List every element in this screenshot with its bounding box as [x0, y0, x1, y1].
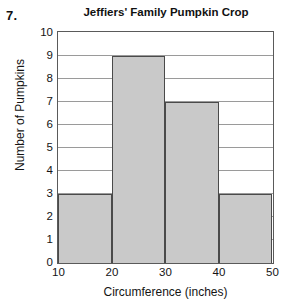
y-tick-label: 3 — [33, 188, 53, 200]
x-tick-label: 50 — [258, 266, 288, 279]
x-axis-title: Circumference (inches) — [57, 285, 274, 299]
y-tick-label: 2 — [33, 211, 53, 223]
x-axis-tick-labels: 1020304050 — [57, 266, 274, 282]
y-tick-label: 5 — [33, 142, 53, 154]
y-axis-tick-labels: 012345678910 — [31, 31, 53, 264]
y-tick-label: 10 — [33, 27, 53, 39]
y-tick-label: 6 — [33, 119, 53, 131]
bar — [219, 194, 273, 263]
y-tick-label: 9 — [33, 50, 53, 62]
y-tick-label: 1 — [33, 234, 53, 246]
plot-area — [57, 31, 274, 264]
y-tick-label: 4 — [33, 165, 53, 177]
x-tick-label: 20 — [97, 266, 127, 279]
y-tick-label: 8 — [33, 73, 53, 85]
bar — [165, 102, 219, 263]
bar — [58, 194, 112, 263]
problem-number: 7. — [6, 8, 17, 23]
bar — [112, 56, 166, 263]
x-tick-label: 10 — [44, 266, 74, 279]
gridline — [58, 78, 273, 79]
y-axis-title: Number of Pumpkins — [13, 25, 27, 205]
plot-inner — [58, 32, 273, 263]
x-tick-label: 40 — [204, 266, 234, 279]
gridline — [58, 55, 273, 56]
x-tick-label: 30 — [151, 266, 181, 279]
y-tick-label: 7 — [33, 96, 53, 108]
chart-title: Jeffiers' Family Pumpkin Crop — [57, 6, 275, 18]
